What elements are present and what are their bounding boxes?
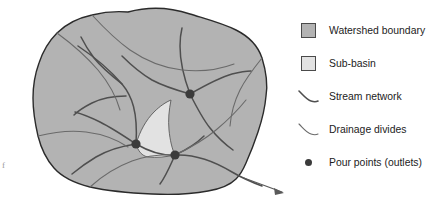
- map-legend: Watershed boundary Sub-basin Stream netw…: [296, 14, 441, 179]
- watershed-map: [0, 0, 300, 212]
- legend-item-subbasin: Sub-basin: [296, 47, 441, 80]
- legend-label-subbasin: Sub-basin: [329, 58, 376, 69]
- pour-point-center-left: [131, 139, 140, 148]
- divide-line-icon: [296, 119, 320, 141]
- area-swatch-subbasin-icon: [296, 53, 320, 75]
- pour-point-center-right: [170, 150, 179, 159]
- legend-label-stream-network: Stream network: [329, 91, 402, 102]
- legend-item-stream-network: Stream network: [296, 80, 441, 113]
- legend-item-drainage-divides: Drainage divides: [296, 113, 441, 146]
- legend-item-pour-points: Pour points (outlets): [296, 146, 441, 179]
- area-swatch-watershed-icon: [296, 20, 320, 42]
- pour-point-upper-right: [185, 89, 194, 98]
- legend-label-pour-points: Pour points (outlets): [329, 157, 422, 168]
- outlet-arrow-icon: [244, 178, 284, 195]
- legend-label-drainage-divides: Drainage divides: [329, 124, 406, 135]
- folio-mark: f: [2, 160, 5, 170]
- watershed-boundary-polygon: [33, 8, 267, 194]
- legend-label-watershed-boundary: Watershed boundary: [329, 25, 425, 36]
- watershed-map-svg: [0, 0, 300, 212]
- stream-line-icon: [296, 86, 320, 108]
- legend-item-watershed-boundary: Watershed boundary: [296, 14, 441, 47]
- pour-point-dot-icon: [296, 152, 320, 174]
- watershed-figure: USED BY PERMISSION. COPYRIGHT © ESRI. AL…: [0, 0, 441, 212]
